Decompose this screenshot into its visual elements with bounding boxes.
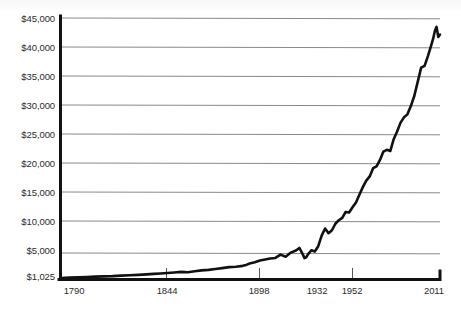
plot-canvas xyxy=(0,0,461,316)
data-line-real-income-per-capita xyxy=(61,27,440,278)
gridline xyxy=(59,163,440,164)
x-tick-marks xyxy=(167,268,353,279)
gridline xyxy=(59,134,440,135)
gridline xyxy=(59,221,440,222)
gridline xyxy=(59,253,440,254)
gridlines xyxy=(59,18,440,254)
gridline xyxy=(59,47,440,48)
gridline xyxy=(59,76,440,77)
gridline xyxy=(59,18,440,19)
gridline xyxy=(59,105,440,106)
chart-page: $45,000 $40,000 $35,000 $30,000 $25,000 … xyxy=(0,0,461,316)
line-chart: $45,000 $40,000 $35,000 $30,000 $25,000 … xyxy=(0,0,461,316)
gridline xyxy=(59,192,440,193)
